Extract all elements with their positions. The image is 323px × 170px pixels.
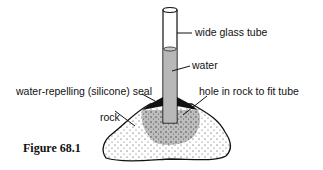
figure-68-1: wide glass tube water water-repelling (s… <box>0 0 323 170</box>
label-seal: water-repelling (silicone) seal <box>16 85 152 97</box>
label-hole: hole in rock to fit tube <box>199 85 299 97</box>
label-rock: rock <box>100 111 120 123</box>
figure-caption: Figure 68.1 <box>23 141 81 156</box>
label-tube: wide glass tube <box>195 26 267 38</box>
label-water: water <box>192 59 218 71</box>
water-column <box>164 49 177 123</box>
